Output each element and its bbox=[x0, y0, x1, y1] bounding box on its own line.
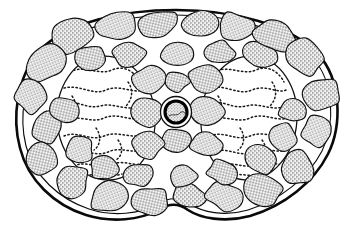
parenchyma-cell bbox=[204, 40, 236, 63]
parenchyma-cell bbox=[171, 165, 199, 187]
parenchyma-cell bbox=[14, 79, 47, 115]
parenchyma-cell bbox=[123, 165, 153, 187]
parenchyma-cell bbox=[220, 12, 255, 41]
parenchyma-cell bbox=[57, 166, 88, 199]
parenchyma-cell bbox=[286, 38, 325, 77]
parenchyma-cell bbox=[66, 136, 92, 163]
parenchyma-cell bbox=[26, 44, 66, 82]
vascular-bundle bbox=[161, 97, 192, 128]
parenchyma-cell bbox=[26, 142, 57, 175]
illustration-canvas bbox=[0, 0, 354, 235]
parenchyma-cell bbox=[165, 72, 190, 92]
parenchyma-cell bbox=[95, 12, 136, 40]
parenchyma-cell bbox=[161, 129, 191, 152]
parenchyma-cell bbox=[302, 79, 339, 111]
parenchyma-cell bbox=[132, 65, 167, 93]
parenchyma-cell bbox=[138, 12, 177, 38]
parenchyma-cell bbox=[75, 46, 106, 70]
parenchyma-cell bbox=[160, 42, 193, 65]
cross-section-figure bbox=[0, 0, 354, 235]
parenchyma-cell bbox=[181, 10, 219, 36]
parenchyma-cell bbox=[91, 180, 128, 210]
parenchyma-cell bbox=[244, 174, 283, 207]
parenchyma-cell bbox=[204, 181, 243, 212]
parenchyma-cell bbox=[301, 115, 331, 148]
